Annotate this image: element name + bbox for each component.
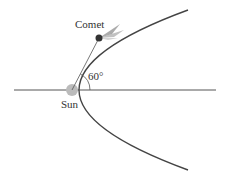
comet-icon <box>96 35 103 42</box>
radius-line <box>72 38 99 90</box>
angle-label: 60° <box>88 70 103 82</box>
comet-label: Comet <box>75 18 104 30</box>
sun-label: Sun <box>61 98 79 110</box>
comet-orbit-diagram: Comet 60° Sun <box>0 0 228 181</box>
